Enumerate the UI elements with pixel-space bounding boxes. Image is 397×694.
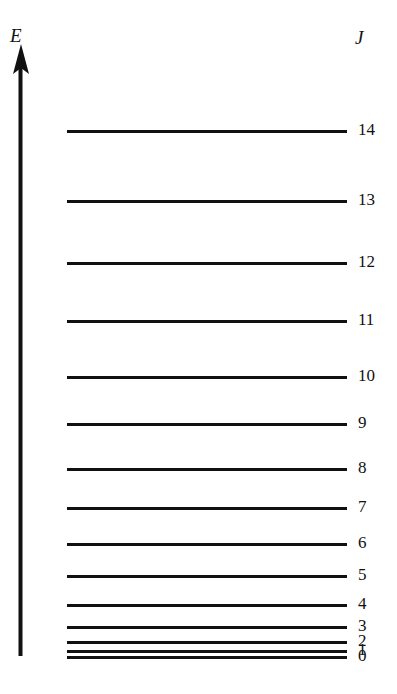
energy-level-line	[67, 641, 347, 644]
energy-level-line	[67, 604, 347, 607]
quantum-number-column-label: J	[355, 28, 364, 47]
energy-level-label: 12	[358, 253, 375, 270]
energy-axis-arrow	[10, 44, 32, 656]
energy-level-label: 11	[358, 311, 374, 328]
energy-level-line	[67, 656, 347, 659]
energy-level-label: 10	[358, 367, 375, 384]
energy-level-label: 0	[358, 647, 367, 664]
energy-level-label: 5	[358, 566, 367, 583]
energy-level-label: 7	[358, 498, 367, 515]
energy-level-label: 13	[358, 191, 375, 208]
energy-level-line	[67, 468, 347, 471]
rotational-energy-level-diagram: E J 14131211109876543210	[0, 0, 397, 694]
energy-level-line	[67, 507, 347, 510]
energy-level-line	[67, 130, 347, 133]
energy-level-label: 9	[358, 414, 367, 431]
energy-axis-label: E	[10, 26, 22, 45]
energy-level-line	[67, 543, 347, 546]
energy-level-label: 4	[358, 595, 367, 612]
energy-level-label: 14	[358, 121, 375, 138]
energy-level-label: 6	[358, 534, 367, 551]
energy-level-line	[67, 423, 347, 426]
energy-level-line	[67, 575, 347, 578]
energy-level-line	[67, 320, 347, 323]
energy-level-line	[67, 262, 347, 265]
energy-level-line	[67, 650, 347, 653]
energy-level-line	[67, 376, 347, 379]
energy-level-label: 8	[358, 459, 367, 476]
axis-shaft	[19, 66, 23, 656]
energy-level-line	[67, 626, 347, 629]
energy-level-line	[67, 200, 347, 203]
